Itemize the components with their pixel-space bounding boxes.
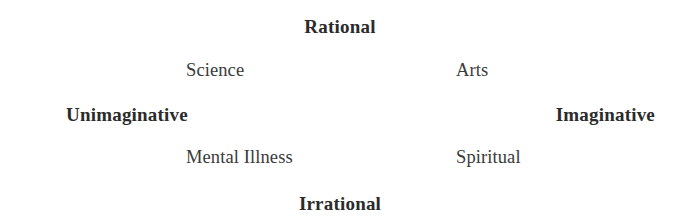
quadrant-label-spiritual: Spiritual bbox=[456, 148, 521, 167]
axis-label-right-imaginative: Imaginative bbox=[556, 105, 655, 124]
quadrant-diagram: Rational Science Arts Unimaginative Imag… bbox=[0, 0, 680, 224]
axis-label-bottom-irrational: Irrational bbox=[299, 194, 381, 213]
axis-label-top-rational: Rational bbox=[304, 17, 375, 36]
axis-label-left-unimaginative: Unimaginative bbox=[66, 105, 188, 124]
quadrant-label-mental-illness: Mental Illness bbox=[186, 148, 293, 167]
quadrant-label-arts: Arts bbox=[456, 61, 488, 80]
quadrant-label-science: Science bbox=[186, 61, 244, 80]
